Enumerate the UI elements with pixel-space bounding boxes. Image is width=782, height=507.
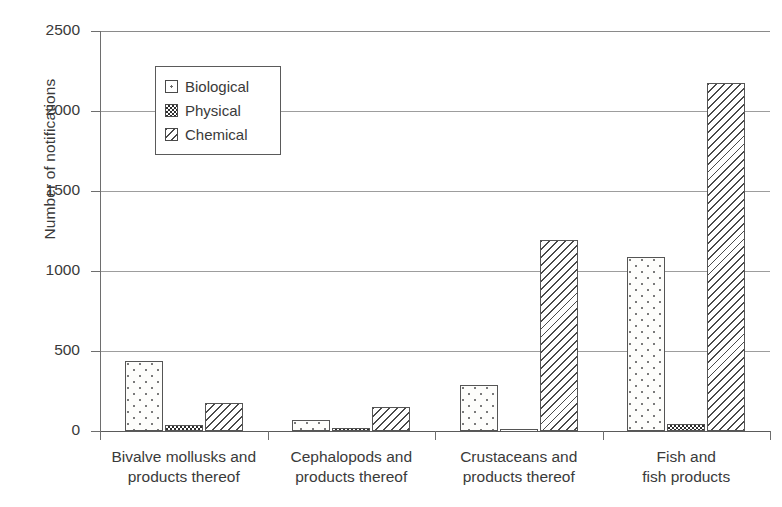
- bar-chemical-3: [707, 83, 745, 431]
- bar-physical-3: [667, 424, 705, 431]
- bar-fill-hatch: [373, 408, 409, 430]
- bar-fill-checker: [333, 429, 369, 430]
- bar-fill-dots: [628, 258, 664, 430]
- y-tick-mark: [91, 111, 100, 112]
- y-axis-title: Number of notifications: [41, 29, 59, 289]
- x-category-label: Crustaceans andproducts thereof: [425, 447, 613, 487]
- bar-biological-1: [292, 420, 330, 431]
- legend-swatch-physical-icon: [165, 104, 178, 117]
- bar-biological-3: [627, 257, 665, 431]
- y-tick-label: 0: [18, 421, 80, 439]
- x-category-label-line: Fish and: [593, 447, 781, 467]
- y-tick-label: 500: [18, 341, 80, 359]
- x-category-label-line: products thereof: [90, 467, 278, 487]
- x-category-label-line: fish products: [593, 467, 781, 487]
- bar-fill-dots: [126, 362, 162, 430]
- x-tick-mark: [770, 431, 771, 440]
- bar-fill-checker: [166, 426, 202, 430]
- x-category-label: Bivalve mollusks andproducts thereof: [90, 447, 278, 487]
- bar-chemical-1: [372, 407, 410, 431]
- bar-chemical-2: [540, 240, 578, 431]
- y-tick-mark: [91, 31, 100, 32]
- legend-swatch-biological-icon: [165, 80, 178, 93]
- bar-fill-hatch: [708, 84, 744, 430]
- y-tick-label: 1000: [18, 261, 80, 279]
- bar-physical-2: [500, 429, 538, 431]
- bar-physical-1: [332, 428, 370, 431]
- legend-item-biological: Biological: [165, 74, 271, 98]
- bar-fill-hatch: [206, 404, 242, 430]
- x-tick-mark: [435, 431, 436, 440]
- x-category-label-line: products thereof: [425, 467, 613, 487]
- legend-swatch-chemical-icon: [165, 128, 178, 141]
- legend-label-biological: Biological: [185, 78, 249, 95]
- legend-label-chemical: Chemical: [185, 126, 248, 143]
- y-tick-mark: [91, 351, 100, 352]
- y-tick-label: 1500: [18, 181, 80, 199]
- bar-fill-dots: [293, 421, 329, 430]
- y-tick-mark: [91, 191, 100, 192]
- y-tick-label: 2500: [18, 21, 80, 39]
- x-category-label: Fish andfish products: [593, 447, 781, 487]
- bar-biological-2: [460, 385, 498, 431]
- bar-fill-dots: [461, 386, 497, 430]
- y-tick-mark: [91, 271, 100, 272]
- y-tick-label: 2000: [18, 101, 80, 119]
- legend-label-physical: Physical: [185, 102, 241, 119]
- legend-item-chemical: Chemical: [165, 122, 271, 146]
- x-category-label: Cephalopods andproducts thereof: [258, 447, 446, 487]
- x-category-label-line: Crustaceans and: [425, 447, 613, 467]
- bar-biological-0: [125, 361, 163, 431]
- bar-fill-hatch: [541, 241, 577, 430]
- x-tick-mark: [100, 431, 101, 440]
- x-category-label-line: Cephalopods and: [258, 447, 446, 467]
- legend-item-physical: Physical: [165, 98, 271, 122]
- y-tick-mark: [91, 431, 100, 432]
- legend: Biological Physical Chemical: [155, 66, 281, 155]
- bar-chemical-0: [205, 403, 243, 431]
- x-category-label-line: Bivalve mollusks and: [90, 447, 278, 467]
- x-tick-mark: [268, 431, 269, 440]
- x-tick-mark: [603, 431, 604, 440]
- bar-physical-0: [165, 425, 203, 431]
- bar-fill-checker: [668, 425, 704, 430]
- x-category-label-line: products thereof: [258, 467, 446, 487]
- bar-chart: Number of notifications 0500100015002000…: [0, 0, 782, 507]
